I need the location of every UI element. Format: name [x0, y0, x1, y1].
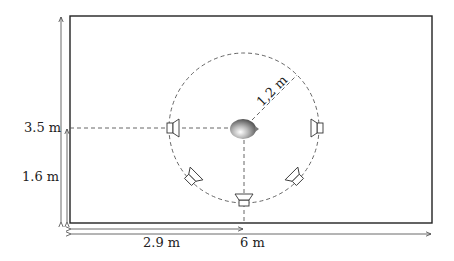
room-height-label: 3.5 m — [24, 120, 61, 135]
room-width-label: 6 m — [240, 235, 265, 250]
listener-head-icon — [230, 119, 259, 139]
listener-x-label: 2.9 m — [143, 235, 180, 250]
speaker-bottom-icon — [235, 194, 253, 206]
speaker-bottom-right-icon — [285, 167, 306, 188]
radius-label: 1,2 m — [254, 72, 291, 109]
speaker-right-icon — [311, 119, 323, 137]
listener-y-label: 1.6 m — [22, 169, 59, 184]
diagram-canvas: 1,2 m 3.5 m 1.6 m 2.9 m 6 m — [0, 0, 454, 261]
speaker-bottom-left-icon — [182, 167, 203, 188]
room-walls — [70, 16, 432, 223]
speaker-left-icon — [167, 119, 179, 137]
